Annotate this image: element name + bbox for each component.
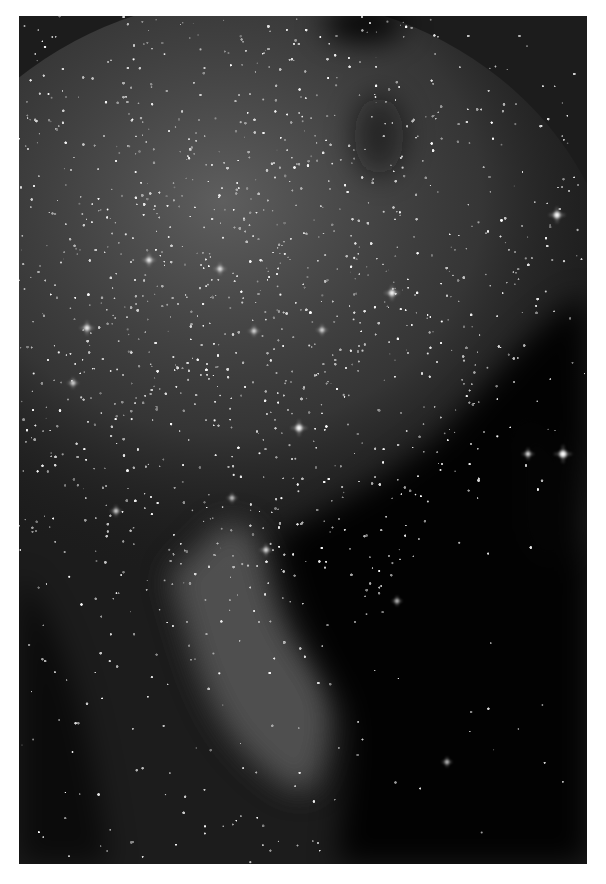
- astrophoto-image: [19, 16, 587, 864]
- star-field: [19, 16, 587, 864]
